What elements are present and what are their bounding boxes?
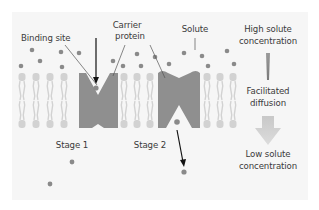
carrier-protein-label-line2: protein [115, 31, 145, 42]
phospholipid-bilayer-left [19, 73, 68, 128]
low-concentration-label-line1: Low solute [246, 149, 291, 160]
facilitated-diffusion-label-line1: Facilitated [247, 86, 290, 97]
solute-particles-inside [48, 160, 187, 187]
carrier-protein-leader-2 [150, 45, 165, 78]
binding-site-label: Binding site [21, 33, 71, 44]
high-concentration-label-line2: concentration [239, 36, 297, 47]
stage1-label: Stage 1 [56, 140, 88, 151]
exit-arrow [177, 130, 183, 162]
exit-arrowhead [180, 159, 186, 167]
carrier-protein-stage1 [79, 73, 118, 128]
bound-solute [93, 85, 98, 90]
high-concentration-label-line1: High solute [244, 24, 292, 35]
phospholipid-bilayer-right [204, 73, 237, 128]
low-concentration-label-line2: concentration [239, 161, 297, 172]
gradient-arrow-icon [255, 116, 281, 145]
phospholipid-bilayer-middle [121, 73, 154, 128]
solute-particles-outside [19, 48, 237, 70]
released-solute [174, 119, 180, 125]
stage2-label: Stage 2 [134, 140, 166, 151]
gradient-wedge-icon [266, 53, 270, 80]
facilitated-diffusion-label-line2: diffusion [250, 98, 286, 109]
carrier-protein-label-line1: Carrier [113, 20, 142, 31]
carrier-protein-stage2 [158, 71, 200, 128]
solute-label: Solute [182, 24, 209, 35]
entry-arrowhead [93, 77, 99, 84]
